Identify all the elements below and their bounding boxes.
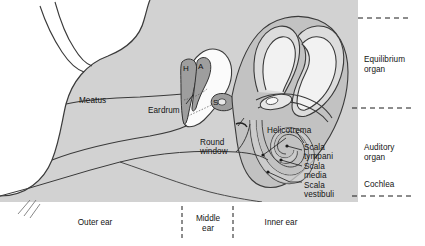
annotation-equilibrium-organ-line1: Equilibrium (364, 55, 405, 65)
label-eardrum: Eardrum (148, 106, 180, 116)
annotation-auditory-organ-line2: organ (364, 153, 385, 163)
label-round-window-line2: window (200, 147, 228, 157)
label-scala-tympani-line2: tympani (304, 152, 333, 162)
label-scala-vestibuli-line2: vestibuli (304, 190, 334, 200)
region-label-middle-ear-line1: Middle (188, 214, 228, 224)
label-helicotrema: Helicotrema (267, 126, 311, 136)
region-label-inner-ear: Inner ear (246, 218, 316, 228)
region-label-outer-ear: Outer ear (60, 218, 130, 228)
region-label-middle-ear-line2: ear (188, 224, 228, 234)
ear-cross-section-drawing (0, 0, 425, 246)
pinna-outline (40, 2, 92, 72)
right-divider-lines (352, 18, 412, 196)
label-scala-media-line2: media (304, 171, 327, 181)
annotation-equilibrium-organ-line2: organ (364, 65, 385, 75)
annotation-cochlea: Cochlea (364, 180, 394, 190)
ear-anatomy-figure: Meatus Eardrum Round window Helicotrema … (0, 0, 425, 246)
annotation-auditory-organ-line1: Auditory (364, 143, 394, 153)
label-meatus: Meatus (79, 96, 106, 106)
ossicle-label-anvil: A (198, 62, 203, 71)
hatch-marks (18, 200, 40, 218)
ossicle-label-hammer: H (183, 64, 189, 73)
ossicle-label-stirrup: S (213, 98, 218, 107)
